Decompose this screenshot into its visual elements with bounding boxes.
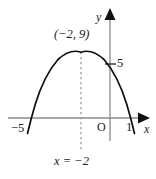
x-axis-label: x [144,123,149,135]
vertex-label: (−2, 9) [54,28,90,41]
right-x-intercept-label: 1 [126,121,132,134]
y-intercept-value-label: 5 [117,57,123,70]
origin-label: O [97,121,106,133]
y-axis-label: y [96,11,101,23]
y-axis-arrow-icon [105,8,116,20]
axis-of-symmetry-label: x = −2 [54,155,89,168]
parabola-figure: (−2, 9) y x 5 −5 O 1 x = −2 [0,0,156,179]
left-x-intercept-label: −5 [11,122,24,135]
